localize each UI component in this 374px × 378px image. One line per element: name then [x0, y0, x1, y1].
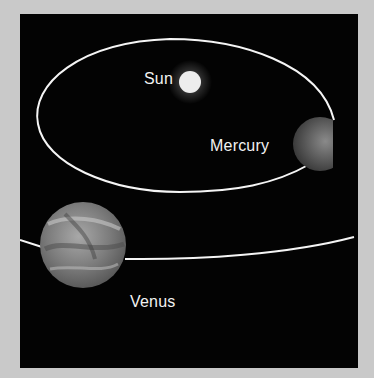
sun-icon — [179, 71, 201, 93]
diagram-panel: Sun Mercury Venus — [20, 14, 358, 368]
sun-label: Sun — [144, 70, 173, 88]
venus-label: Venus — [130, 293, 175, 311]
orbit-diagram — [20, 14, 358, 368]
mercury-icon — [293, 117, 347, 171]
mercury-label: Mercury — [210, 137, 269, 155]
venus-icon — [40, 202, 126, 288]
